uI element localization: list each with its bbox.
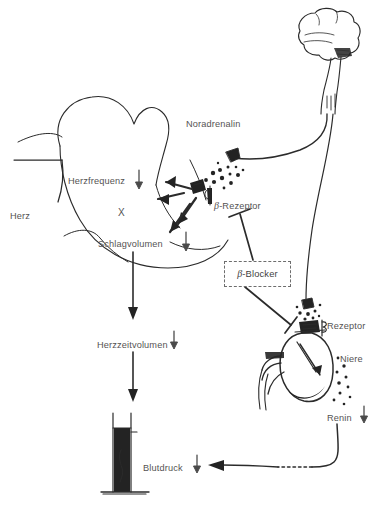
- label-beta-rezeptor-herz-text: -Rezeptor: [219, 201, 261, 211]
- label-herzfrequenz: Herzfrequenz: [68, 177, 125, 186]
- label-rezeptor-niere: Rezeptor: [327, 322, 365, 331]
- physiology-diagram: [0, 0, 382, 509]
- beta-blocker-box[interactable]: β-Blocker: [224, 261, 291, 287]
- cardiac-effect-arrows: [158, 176, 196, 232]
- label-herzzeitvolumen: Herzzeitvolumen: [97, 341, 168, 350]
- beta-blocker-label-text: -Blocker: [242, 268, 278, 279]
- kidney-illustration: [259, 298, 352, 410]
- flow-arrows: [128, 252, 138, 402]
- label-x-marker: X: [118, 208, 125, 218]
- label-herz: Herz: [10, 212, 30, 221]
- manometer-illustration: [101, 413, 149, 494]
- renin-to-bloodpressure-arrow: [208, 424, 338, 471]
- beta-blocker-label: β-Blocker: [237, 269, 278, 279]
- label-niere: Niere: [340, 355, 363, 364]
- label-blutdruck: Blutdruck: [143, 464, 183, 473]
- label-noradrenalin: Noradrenalin: [186, 120, 240, 129]
- label-schlagvolumen: Schlagvolumen: [98, 240, 163, 249]
- label-renin: Renin: [327, 414, 352, 423]
- brain-illustration: [299, 8, 360, 114]
- label-beta-rezeptor-herz: β-Rezeptor: [214, 201, 261, 211]
